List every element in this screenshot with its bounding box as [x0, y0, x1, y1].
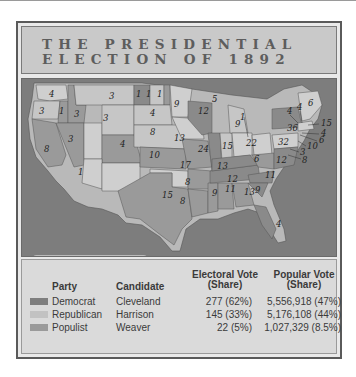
row-popular: 5,556,918 (47%): [252, 295, 341, 308]
row-popular: 1,027,329 (8.5%): [252, 321, 341, 334]
svg-text:1: 1: [157, 89, 162, 99]
svg-text:4: 4: [149, 108, 155, 118]
svg-text:1: 1: [78, 167, 83, 177]
svg-text:15: 15: [321, 118, 332, 128]
map-legend: Non-voting territory: [29, 255, 151, 257]
title-box: THE PRESIDENTIAL ELECTION OF 1892: [21, 26, 337, 74]
svg-text:13: 13: [174, 133, 185, 143]
header-candidate: Candidate: [116, 282, 164, 292]
figure-title: THE PRESIDENTIAL ELECTION OF 1892: [42, 37, 297, 67]
row-party: Populist: [52, 321, 88, 334]
svg-text:15: 15: [162, 190, 173, 200]
democrat-swatch: [30, 298, 48, 305]
us-map-graphic: 4 3 1 3 3 3 3 8 1 1 1 1 4 8 4 10 9: [22, 79, 337, 257]
row-electoral: 277 (62%): [172, 295, 252, 308]
svg-text:6: 6: [308, 98, 314, 108]
row-electoral: 145 (33%): [172, 308, 252, 321]
election-map: 4 3 1 3 3 3 3 8 1 1 1 1 4 8 4 10 9: [21, 78, 337, 257]
svg-text:3: 3: [39, 106, 44, 116]
svg-text:6: 6: [254, 154, 260, 164]
svg-text:32: 32: [278, 137, 289, 147]
svg-text:8: 8: [180, 196, 186, 206]
figure-frame: THE PRESIDENTIAL ELECTION OF 1892: [16, 21, 342, 359]
header-electoral-line2: (Share): [180, 280, 270, 290]
row-candidate: Cleveland: [116, 295, 160, 308]
title-line-2: ELECTION OF 1892: [42, 51, 291, 67]
svg-text:3: 3: [109, 91, 114, 101]
svg-text:13: 13: [217, 161, 228, 171]
svg-text:17: 17: [180, 160, 191, 170]
svg-text:8: 8: [44, 144, 50, 154]
svg-text:4: 4: [275, 219, 281, 229]
row-candidate: Weaver: [116, 321, 150, 334]
svg-text:9: 9: [255, 185, 261, 195]
svg-text:8: 8: [302, 155, 308, 165]
svg-text:1: 1: [146, 89, 151, 99]
svg-text:8: 8: [150, 127, 156, 137]
title-line-1: THE PRESIDENTIAL: [42, 36, 297, 52]
svg-text:36: 36: [287, 123, 298, 133]
svg-text:4: 4: [48, 89, 54, 99]
svg-text:4: 4: [296, 102, 302, 112]
svg-text:3: 3: [103, 113, 108, 123]
svg-text:10: 10: [307, 141, 318, 151]
populist-swatch: [30, 324, 48, 331]
svg-text:1: 1: [59, 106, 64, 116]
svg-text:4: 4: [119, 139, 125, 149]
row-party: Democrat: [52, 295, 95, 308]
svg-text:6: 6: [319, 135, 325, 145]
svg-text:22: 22: [245, 138, 257, 148]
republican-swatch: [30, 311, 48, 318]
svg-text:9: 9: [212, 188, 218, 198]
svg-text:1: 1: [136, 89, 141, 99]
header-electoral: Electoral Vote (Share): [180, 270, 270, 290]
svg-text:8: 8: [185, 177, 191, 187]
svg-text:11: 11: [265, 170, 276, 180]
figure-inner: THE PRESIDENTIAL ELECTION OF 1892: [18, 23, 340, 357]
svg-text:5: 5: [212, 94, 217, 104]
svg-text:13: 13: [244, 187, 255, 197]
header-popular-line2: (Share): [264, 280, 344, 290]
top-rule: [0, 0, 356, 1]
svg-text:9: 9: [174, 99, 180, 109]
results-table: Party Candidate Electoral Vote (Share) P…: [21, 259, 337, 354]
svg-text:15: 15: [222, 141, 233, 151]
svg-text:3: 3: [74, 109, 79, 119]
svg-text:10: 10: [149, 150, 160, 160]
svg-text:11: 11: [225, 184, 236, 194]
header-party: Party: [52, 282, 77, 292]
header-popular: Popular Vote (Share): [264, 270, 344, 290]
row-electoral: 22 (5%): [172, 321, 252, 334]
svg-text:3: 3: [68, 134, 73, 144]
row-popular: 5,176,108 (44%): [252, 308, 341, 321]
row-candidate: Harrison: [116, 308, 154, 321]
svg-text:4: 4: [286, 106, 292, 116]
row-party: Republican: [52, 308, 102, 321]
svg-text:24: 24: [197, 144, 209, 154]
svg-text:12: 12: [276, 155, 287, 165]
svg-text:12: 12: [198, 106, 209, 116]
svg-text:12: 12: [227, 174, 238, 184]
